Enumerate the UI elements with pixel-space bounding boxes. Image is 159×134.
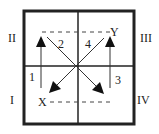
arrow-1-label: 1 [29, 71, 35, 83]
quadrant-diagram [0, 0, 159, 134]
quadrant-label-IV: IV [137, 94, 150, 106]
point-x-label: X [38, 96, 47, 108]
quadrant-label-II: II [8, 32, 16, 44]
quadrant-label-I: I [10, 94, 14, 106]
quadrant-label-III: III [140, 32, 152, 44]
arrow-2-label: 2 [58, 38, 64, 50]
arrow-4-label: 4 [85, 38, 91, 50]
arrow-1-head-icon [36, 36, 46, 47]
arrow-4-shaft [57, 38, 104, 85]
point-y-label: Y [110, 26, 119, 38]
arrow-3-label: 3 [115, 74, 121, 86]
